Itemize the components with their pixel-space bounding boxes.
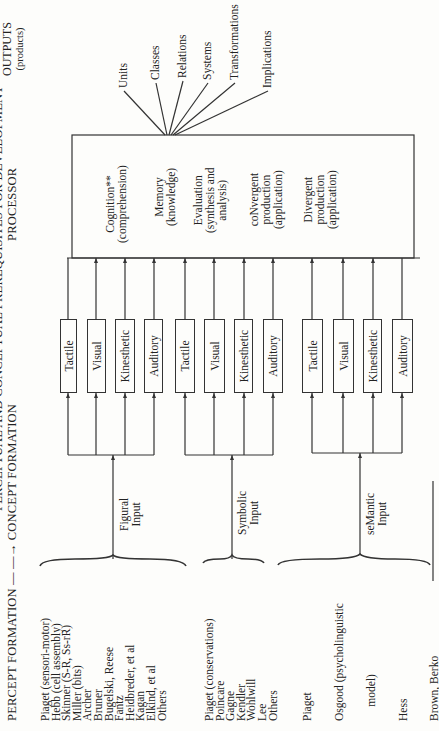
list-item: Elkind, et al <box>146 618 157 721</box>
input-label-line: Input <box>130 498 142 531</box>
op-sublabel: (application) <box>272 170 284 229</box>
modality-box-auditory: Auditory <box>263 319 283 393</box>
modality-box-kinesthetic: Kinesthetic <box>115 319 135 393</box>
modality-box-visual: Visual <box>204 319 225 393</box>
modality-box-kinesthetic: Kinesthetic <box>363 319 382 393</box>
modality-box-tactile: Tactile <box>302 319 323 393</box>
list-item: Hess <box>398 603 409 721</box>
input-label-line: Input <box>376 493 388 535</box>
input-label-line: Symbolic <box>236 491 248 535</box>
modality-box-tactile: Tactile <box>60 319 77 393</box>
processor-op-memory: Memory (knowledge) <box>153 168 177 226</box>
op-sublabel: (synthesis and <box>204 168 216 233</box>
diagram-canvas: PERCEPTUAL AND CONCEPTUAL PREREQUISITES … <box>0 0 439 731</box>
output-systems: Systems <box>201 42 213 80</box>
modality-box-visual: Visual <box>333 319 354 393</box>
output-relations: Relations <box>176 35 188 78</box>
list-item: Others <box>268 618 279 721</box>
list-item: Lee <box>257 618 268 721</box>
researcher-list-semantic: Piaget Osgood (psycholinguistic model) H… <box>281 603 439 721</box>
op-sublabel: (knowledge) <box>165 168 177 226</box>
list-item: Piaget (sensori-motor) <box>40 618 51 721</box>
modality-box-kinesthetic: Kinesthetic <box>234 319 253 393</box>
op-label: coNvergent <box>248 170 260 229</box>
modality-box-visual: Visual <box>87 319 106 393</box>
researcher-list-figural: Piaget (sensori-motor) Hebb (cell assemb… <box>40 618 167 721</box>
list-item: Brown, Berko <box>429 603 439 721</box>
output-classes: Classes <box>149 46 161 81</box>
op-sublabel: (comprehension) <box>116 165 128 243</box>
output-units: Units <box>117 63 129 88</box>
modality-box-auditory: Auditory <box>144 319 163 393</box>
researcher-list-symbolic: Piaget (conservations) Poincare Gagne Ke… <box>204 618 278 721</box>
op-sublabel: (application) <box>326 170 338 229</box>
op-label: Divergent <box>302 170 314 229</box>
list-item: model) <box>366 603 377 721</box>
header-percept-formation: PERCEPT FORMATION — —→ CONCEPT FORMATION <box>6 404 19 721</box>
op-sublabel: analysis) <box>216 168 228 233</box>
list-item: Bruner <box>93 618 104 721</box>
modality-box-tactile: Tactile <box>175 319 195 393</box>
input-label-symbolic: Symbolic Input <box>236 491 260 535</box>
input-label-line: Figural <box>118 498 130 531</box>
op-label: Evaluation <box>192 168 204 233</box>
outputs-sublabel: (products) <box>14 22 25 76</box>
processor-op-cognition: Cognition** (comprehension) <box>104 165 128 243</box>
processor-op-evaluation: Evaluation (synthesis and analysis) <box>192 168 228 233</box>
header-left-label: PERCEPT FORMATION <box>5 588 19 721</box>
op-label: Cognition** <box>104 165 116 243</box>
arrow-icon: — —→ <box>5 544 19 585</box>
list-item: Osgood (psycholinguistic <box>334 603 345 721</box>
header-processor: PROCESSOR <box>6 168 19 241</box>
modality-box-auditory: Auditory <box>392 319 413 393</box>
list-item: Piaget (conservations) <box>204 618 215 721</box>
input-label-semantic: seMantic Input <box>364 493 388 535</box>
output-implications: Implications <box>261 31 273 89</box>
op-sublabel: production <box>260 170 272 229</box>
op-label: Memory <box>153 168 165 226</box>
outputs-label: OUTPUTS <box>1 22 14 76</box>
output-transformations: Transformations <box>228 4 240 80</box>
input-label-line: Input <box>248 491 260 535</box>
processor-op-divergent: Divergent production (application) <box>302 170 338 229</box>
input-label-figural: Figural Input <box>118 498 142 531</box>
list-item: Piaget <box>302 603 313 721</box>
header-concept-label: CONCEPT FORMATION <box>5 404 19 540</box>
header-outputs: OUTPUTS (products) <box>1 22 25 76</box>
list-item: Others <box>157 618 168 721</box>
processor-op-convergent: coNvergent production (application) <box>248 170 284 229</box>
op-sublabel: production <box>314 170 326 229</box>
input-label-line: seMantic <box>364 493 376 535</box>
